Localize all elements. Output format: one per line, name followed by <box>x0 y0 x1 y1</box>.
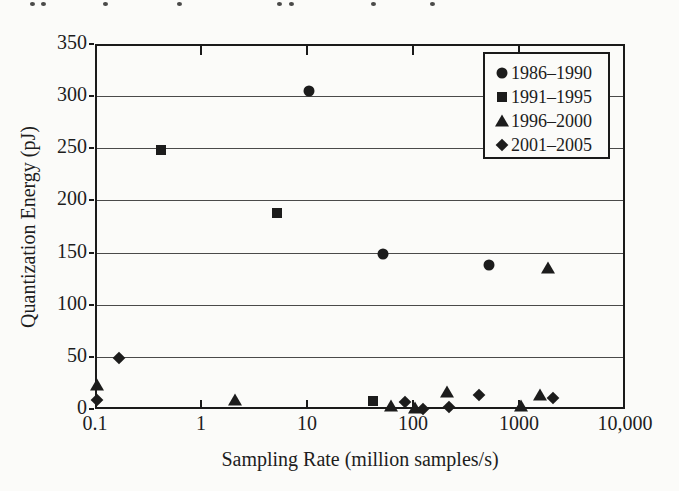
data-point-diamond <box>91 393 104 406</box>
y-tick-100 <box>89 304 94 306</box>
x-tick-bottom-10 <box>306 400 308 407</box>
diamond-icon <box>495 138 511 152</box>
gridline-y-200 <box>97 200 623 201</box>
y-tick-label-350: 350 <box>37 31 87 54</box>
y-tick-200 <box>89 199 94 201</box>
square-icon <box>495 90 511 104</box>
x-tick-label-1: 1 <box>196 412 206 435</box>
legend-row-2001–2005: 2001–2005 <box>495 133 608 157</box>
x-tick-label-0.1: 0.1 <box>83 412 108 435</box>
data-point-triangle <box>541 262 555 274</box>
data-point-triangle <box>533 389 547 401</box>
legend-label: 1986–1990 <box>511 63 592 84</box>
y-tick-label-200: 200 <box>37 187 87 210</box>
x-tick-label-10: 10 <box>297 412 317 435</box>
cropped-text-mark <box>30 2 35 6</box>
cropped-text-mark <box>430 2 435 6</box>
cropped-text-mark <box>371 2 376 6</box>
data-point-diamond <box>112 351 125 364</box>
x-tick-label-100: 100 <box>398 412 428 435</box>
x-tick-top-1 <box>200 46 202 55</box>
y-tick-50 <box>89 356 94 358</box>
legend-label: 1991–1995 <box>511 87 592 108</box>
x-tick-bottom-1 <box>200 400 202 407</box>
x-tick-top-100 <box>412 46 414 55</box>
cropped-text-mark <box>103 2 108 6</box>
gridline-y-50 <box>97 357 623 358</box>
data-point-diamond <box>547 392 560 405</box>
legend: 1986–19901991–19951996–20002001–2005 <box>483 52 610 159</box>
circle-icon <box>495 66 511 80</box>
cropped-text-mark <box>289 2 294 6</box>
legend-row-1986–1990: 1986–1990 <box>495 61 608 85</box>
legend-row-1991–1995: 1991–1995 <box>495 85 608 109</box>
gridline-y-100 <box>97 305 623 306</box>
legend-row-1996–2000: 1996–2000 <box>495 109 608 133</box>
triangle-icon <box>495 114 511 128</box>
data-point-triangle <box>514 399 528 411</box>
gridline-y-150 <box>97 253 623 254</box>
data-point-diamond <box>472 389 485 402</box>
x-axis-title: Sampling Rate (million samples/s) <box>95 448 625 471</box>
data-point-triangle <box>90 378 104 390</box>
figure-page: Quantization Energy (pJ) Sampling Rate (… <box>0 0 679 491</box>
legend-label: 1996–2000 <box>511 111 592 132</box>
square-icon-shape <box>497 92 507 102</box>
data-point-circle <box>304 85 315 96</box>
y-tick-label-150: 150 <box>37 239 87 262</box>
triangle-icon-shape <box>495 114 509 126</box>
y-tick-0 <box>89 408 94 410</box>
y-tick-label-0: 0 <box>37 396 87 419</box>
y-tick-250 <box>89 147 94 149</box>
data-point-circle <box>484 260 495 271</box>
data-point-triangle <box>228 393 242 405</box>
circle-icon-shape <box>497 68 508 79</box>
y-tick-150 <box>89 252 94 254</box>
data-point-square <box>156 145 166 155</box>
x-tick-top-10 <box>306 46 308 55</box>
legend-label: 2001–2005 <box>511 135 592 156</box>
y-tick-label-100: 100 <box>37 291 87 314</box>
cropped-text-mark <box>277 2 282 6</box>
y-tick-label-250: 250 <box>37 135 87 158</box>
data-point-circle <box>378 248 389 259</box>
y-tick-350 <box>89 43 94 45</box>
data-point-square <box>272 208 282 218</box>
diamond-icon-shape <box>496 139 509 152</box>
cropped-caption-remnant <box>0 0 679 9</box>
cropped-text-mark <box>177 2 182 6</box>
data-point-triangle <box>440 386 454 398</box>
cropped-text-mark <box>41 2 46 6</box>
x-tick-label-10,000: 10,000 <box>598 412 653 435</box>
y-tick-label-300: 300 <box>37 83 87 106</box>
y-tick-label-50: 50 <box>37 344 87 367</box>
y-tick-300 <box>89 95 94 97</box>
data-point-diamond <box>443 400 456 413</box>
data-point-triangle <box>384 399 398 411</box>
x-tick-label-1000: 1000 <box>499 412 539 435</box>
data-point-square <box>368 396 378 406</box>
